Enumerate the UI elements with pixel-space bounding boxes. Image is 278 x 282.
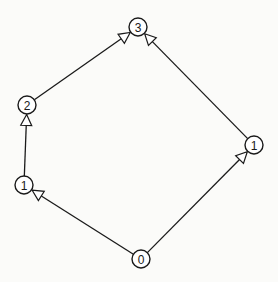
open-arrowhead-icon [21, 114, 32, 125]
edge-line [147, 160, 239, 253]
node-n1r: 1 [245, 136, 263, 154]
edge-line [41, 196, 133, 254]
open-arrowhead-icon [118, 32, 130, 43]
node-label: 1 [251, 139, 258, 153]
node-n1l: 1 [15, 176, 33, 194]
edge-line [34, 39, 121, 100]
edge-2-to-3 [34, 32, 130, 99]
node-label: 1 [21, 179, 28, 193]
edge-0-to-1 [32, 190, 133, 254]
node-n0: 0 [132, 250, 150, 268]
node-n2: 2 [18, 96, 36, 114]
node-n3: 3 [129, 18, 147, 36]
directed-graph: 01231 [0, 0, 278, 282]
edge-line [24, 125, 26, 176]
edge-1-to-2 [21, 114, 32, 176]
edge-line [152, 42, 247, 139]
edge-0-to-1 [147, 152, 247, 253]
graph-canvas: 01231 [0, 0, 278, 282]
node-label: 2 [24, 99, 31, 113]
node-label: 3 [135, 21, 142, 35]
edges-layer [21, 32, 248, 254]
node-label: 0 [138, 253, 145, 267]
nodes-layer: 01231 [15, 18, 263, 268]
open-arrowhead-icon [32, 190, 44, 201]
edge-1-to-3 [145, 34, 248, 139]
